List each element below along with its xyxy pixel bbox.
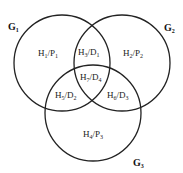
venn-diagram: G1G2G3 H1/P1H3/D1H2/P2H7/D4H5/D2H6/D3H4/…: [0, 0, 183, 173]
region-label-g1-g2: H3/D1: [78, 47, 100, 58]
region-label-g1-only: H1/P1: [38, 48, 58, 59]
region-label-g2-only: H2/P2: [123, 48, 143, 59]
region-label-g1-g3: H5/D2: [55, 90, 77, 101]
set-label-g2: G2: [164, 22, 175, 34]
region-label-g2-g3: H6/D3: [107, 90, 129, 101]
region-label-g3-only: H4/P3: [83, 129, 103, 140]
set-label-g3: G3: [133, 157, 144, 169]
set-label-g1: G1: [8, 21, 19, 33]
region-label-g1-g2-g3: H7/D4: [80, 72, 102, 83]
